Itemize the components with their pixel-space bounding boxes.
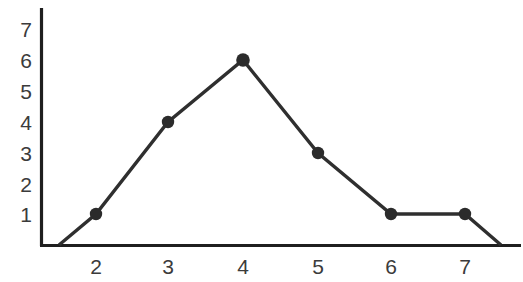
chart-container: 1 2 3 4 5 6 7 2 3 4 5 6 7 (0, 0, 523, 282)
x-axis-tick-label-4: 4 (229, 256, 257, 277)
data-point-marker (236, 53, 250, 67)
y-axis-tick-label-6: 6 (6, 50, 32, 71)
y-axis-tick-label-1: 1 (6, 204, 32, 225)
x-axis-tick-label-7: 7 (451, 256, 479, 277)
y-axis-tick-label-7: 7 (6, 19, 32, 40)
x-axis-tick-label-3: 3 (154, 256, 182, 277)
data-point-marker (312, 147, 324, 159)
data-point-marker (90, 208, 102, 220)
frequency-polygon-chart (0, 0, 523, 282)
x-axis-tick-label-5: 5 (304, 256, 332, 277)
y-axis-tick-label-5: 5 (6, 81, 32, 102)
data-point-marker (459, 208, 471, 220)
y-axis-tick-label-3: 3 (6, 143, 32, 164)
y-axis-tick-label-2: 2 (6, 174, 32, 195)
x-axis-tick-label-2: 2 (82, 256, 110, 277)
data-point-marker (385, 208, 397, 220)
data-point-marker (162, 116, 174, 128)
x-axis-tick-label-6: 6 (377, 256, 405, 277)
data-line (59, 60, 501, 245)
y-axis-tick-label-4: 4 (6, 112, 32, 133)
